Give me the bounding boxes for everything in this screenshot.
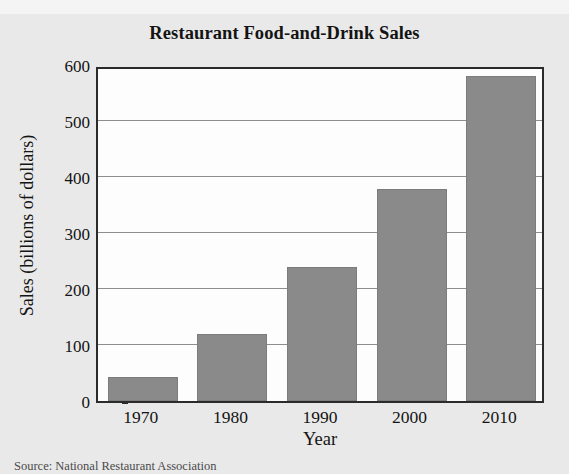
x-axis-title: Year — [96, 429, 544, 450]
y-axis-title: Sales (billions of dollars) — [17, 96, 38, 356]
y-tick-mark-0 — [122, 403, 128, 404]
y-tick-label-100: 100 — [38, 338, 90, 355]
y-tick-label-400: 400 — [38, 170, 90, 187]
bar-2010 — [466, 76, 536, 401]
bar-2000 — [377, 189, 447, 401]
x-tick-label-1980: 1980 — [186, 407, 276, 428]
x-tick-label-1990: 1990 — [275, 407, 365, 428]
bar-1980 — [197, 334, 267, 401]
y-tick-label-500: 500 — [38, 114, 90, 131]
chart-figure: Restaurant Food-and-Drink Sales 01002003… — [0, 0, 569, 474]
y-tick-label-600: 600 — [38, 58, 90, 75]
y-tick-label-300: 300 — [38, 226, 90, 243]
bar-1990 — [287, 267, 357, 401]
y-tick-label-0: 0 — [38, 394, 90, 411]
y-axis-tick-labels: 0100200300400500600 — [32, 0, 90, 474]
bar-1970 — [108, 377, 178, 401]
source-note: Source: National Restaurant Association — [14, 459, 216, 474]
x-tick-label-1970: 1970 — [96, 407, 186, 428]
plot-area — [96, 67, 544, 403]
y-tick-label-200: 200 — [38, 282, 90, 299]
x-tick-label-2000: 2000 — [365, 407, 455, 428]
x-tick-label-2010: 2010 — [454, 407, 544, 428]
